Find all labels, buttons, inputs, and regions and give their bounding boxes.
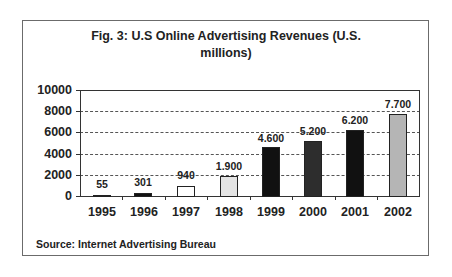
- x-tick: [292, 196, 293, 200]
- x-tick-label: 2000: [292, 205, 334, 219]
- y-tick: [76, 154, 80, 155]
- value-label-2002: 7.700: [377, 98, 419, 110]
- bar-1996: [134, 193, 152, 197]
- y-tick-label: 8000: [24, 104, 72, 118]
- x-tick-label: 1997: [165, 205, 207, 219]
- bar-1998: [220, 176, 238, 197]
- x-tick-label: 1995: [81, 205, 123, 219]
- y-tick-label: 2000: [24, 168, 72, 182]
- x-tick: [377, 196, 378, 200]
- value-label-2000: 5.200: [292, 125, 334, 137]
- chart-title-line-2: millions): [0, 45, 452, 62]
- bar-2002: [389, 114, 407, 197]
- bar-1999: [262, 147, 280, 197]
- y-tick: [76, 175, 80, 176]
- x-tick-label: 1999: [250, 205, 292, 219]
- x-tick-label: 1996: [123, 205, 165, 219]
- y-tick-label: 0: [24, 189, 72, 203]
- y-tick: [76, 132, 80, 133]
- value-label-1995: 55: [81, 178, 123, 190]
- bar-2001: [346, 130, 364, 197]
- bar-1997: [177, 186, 195, 197]
- y-tick-label: 6000: [24, 125, 72, 139]
- x-tick: [207, 196, 208, 200]
- y-tick: [76, 196, 80, 197]
- x-tick-label: 2001: [334, 205, 376, 219]
- x-tick: [165, 196, 166, 200]
- x-tick: [335, 196, 336, 200]
- x-tick: [250, 196, 251, 200]
- y-tick-label: 10000: [24, 83, 72, 97]
- value-label-1999: 4.600: [250, 132, 292, 144]
- y-tick: [76, 111, 80, 112]
- y-tick-label: 4000: [24, 147, 72, 161]
- x-tick-label: 2002: [377, 205, 419, 219]
- chart-title-line-1: Fig. 3: U.S Online Advertising Revenues …: [0, 28, 452, 45]
- value-label-1998: 1.900: [208, 160, 250, 172]
- value-label-2001: 6.200: [334, 114, 376, 126]
- bar-1995: [93, 195, 111, 197]
- y-tick: [76, 90, 80, 91]
- source-note: Source: Internet Advertising Bureau: [36, 238, 216, 250]
- value-label-1996: 301: [122, 176, 164, 188]
- x-tick-label: 1998: [208, 205, 250, 219]
- x-tick: [122, 196, 123, 200]
- chart-title: Fig. 3: U.S Online Advertising Revenues …: [0, 28, 452, 62]
- value-label-1997: 940: [165, 169, 207, 181]
- bar-2000: [304, 141, 322, 197]
